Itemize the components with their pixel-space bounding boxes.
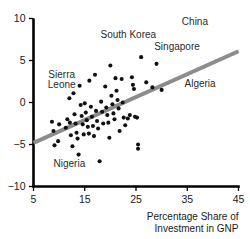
data-point	[52, 143, 56, 147]
x-tick-label: 25	[130, 193, 142, 205]
x-tick-label: 5	[31, 193, 37, 205]
data-point	[122, 116, 126, 120]
y-tick-label: −5	[14, 138, 26, 150]
data-point	[131, 83, 135, 87]
data-point	[116, 98, 120, 102]
data-point	[87, 79, 91, 83]
data-point	[118, 129, 122, 133]
data-point	[98, 159, 102, 163]
data-point	[117, 106, 121, 110]
data-point	[136, 142, 140, 146]
data-point	[154, 62, 158, 66]
scatter-plot-svg: −10−50510 515253545 ChinaSouth KoreaSing…	[0, 0, 250, 239]
data-point	[73, 121, 77, 125]
country-label: Singapore	[154, 41, 200, 52]
data-point	[99, 100, 103, 104]
country-label: South Korea	[101, 29, 157, 40]
data-point	[100, 110, 104, 114]
data-point	[101, 121, 105, 125]
data-point	[87, 132, 91, 136]
data-point	[50, 120, 54, 124]
country-label: Leone	[48, 79, 76, 90]
data-point	[112, 117, 116, 121]
data-point	[71, 91, 75, 95]
data-point	[111, 111, 115, 115]
data-point	[93, 73, 97, 77]
x-tick-label: 45	[233, 193, 245, 205]
data-point	[95, 119, 99, 123]
regression-line	[34, 51, 239, 143]
data-point	[79, 103, 83, 107]
country-label: Algeria	[184, 78, 216, 89]
data-point	[132, 87, 136, 91]
data-point	[51, 129, 55, 133]
scatter-chart-figure: −10−50510 515253545 ChinaSouth KoreaSing…	[0, 0, 250, 239]
data-point	[68, 121, 72, 125]
data-point	[90, 115, 94, 119]
y-axis-tick-labels: −10−50510	[8, 12, 26, 192]
data-point	[77, 153, 81, 157]
data-point	[84, 111, 88, 115]
data-point	[75, 131, 79, 135]
data-point	[80, 114, 84, 118]
data-point	[85, 118, 89, 122]
data-point	[135, 116, 139, 120]
data-point	[56, 139, 60, 143]
data-point	[64, 126, 68, 130]
y-tick-label: 5	[20, 54, 26, 66]
data-point	[83, 101, 87, 105]
data-point	[106, 121, 110, 125]
data-point	[81, 122, 85, 126]
data-point	[121, 100, 125, 104]
data-point	[160, 88, 164, 92]
y-tick-label: −10	[8, 180, 26, 192]
data-point	[144, 80, 148, 84]
y-tick-label: 10	[14, 12, 26, 24]
data-point	[82, 132, 86, 136]
country-label: China	[182, 16, 209, 27]
data-point	[114, 89, 118, 93]
data-point	[108, 63, 112, 67]
data-point	[65, 117, 69, 121]
data-point	[150, 85, 154, 89]
x-axis-title-line1: Percentage Share of	[147, 211, 239, 222]
data-point	[110, 102, 114, 106]
data-point	[96, 126, 100, 130]
data-point	[113, 76, 117, 80]
data-point	[120, 77, 124, 81]
data-point	[69, 133, 73, 137]
data-point	[67, 96, 71, 100]
data-point	[130, 75, 134, 79]
data-point	[123, 123, 127, 127]
x-tick-label: 15	[79, 193, 91, 205]
x-axis-tick-labels: 515253545	[31, 193, 245, 205]
data-point	[89, 105, 93, 109]
data-point	[70, 144, 74, 148]
data-point	[103, 84, 107, 88]
x-axis-title: Percentage Share ofInvestment in GNP	[147, 211, 239, 234]
data-point	[91, 124, 95, 128]
data-point	[57, 122, 61, 126]
data-point	[104, 105, 108, 109]
data-point	[109, 94, 113, 98]
data-point	[107, 136, 111, 140]
data-point	[92, 134, 96, 138]
data-point	[128, 113, 132, 117]
data-point	[72, 112, 76, 116]
data-point	[139, 55, 143, 59]
country-label: Nigeria	[54, 158, 86, 169]
data-point	[78, 84, 82, 88]
data-point	[136, 147, 140, 151]
x-axis-title-line2: Investment in GNP	[155, 223, 239, 234]
data-point	[94, 109, 98, 113]
x-tick-label: 35	[181, 193, 193, 205]
data-point	[86, 125, 90, 129]
data-point	[76, 137, 80, 141]
y-tick-label: 0	[20, 96, 26, 108]
data-point	[105, 113, 109, 117]
trend-line	[34, 51, 239, 143]
